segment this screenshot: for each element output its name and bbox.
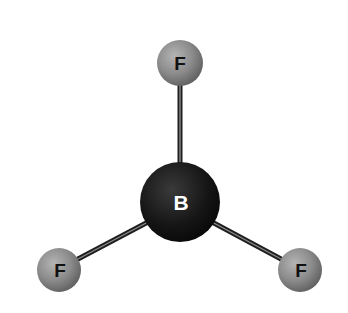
- atom-f-left: F: [37, 248, 81, 292]
- atom-label-b: B: [173, 191, 188, 214]
- atom-label-f-left: F: [54, 260, 66, 281]
- atom-f-right: F: [278, 248, 322, 292]
- atom-f-top: F: [157, 40, 203, 86]
- bf3-molecule-diagram: F F F B: [0, 0, 348, 313]
- atom-b-central: B: [140, 162, 220, 242]
- bond-highlight: [78, 222, 148, 259]
- bond-highlight: [212, 222, 281, 259]
- atom-label-f-top: F: [174, 53, 186, 74]
- atom-label-f-right: F: [295, 260, 307, 281]
- molecule-svg: F F F B: [0, 0, 348, 313]
